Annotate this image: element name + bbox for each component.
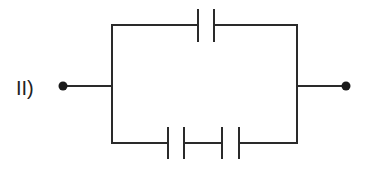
bottom-capacitor-1-icon: [168, 128, 184, 158]
circuit-diagram: II): [0, 0, 371, 174]
bottom-capacitor-2-icon: [222, 128, 239, 158]
left-terminal-dot-icon: [59, 82, 68, 91]
diagram-label: II): [16, 77, 34, 99]
top-capacitor-icon: [198, 10, 214, 41]
right-terminal-dot-icon: [342, 82, 351, 91]
